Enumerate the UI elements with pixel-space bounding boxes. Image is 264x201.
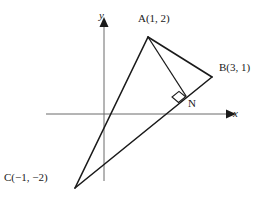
triangle-group: [75, 37, 212, 188]
axes-group: [46, 17, 236, 181]
segment-AN-altitude: [148, 37, 186, 96]
segment-AC: [75, 37, 148, 188]
point-label-A: A(1, 2): [138, 13, 170, 24]
geometry-figure: A(1, 2) B(3, 1) C(−1, −2) N x y: [0, 0, 264, 201]
point-label-B: B(3, 1): [219, 62, 250, 73]
x-axis-label: x: [233, 108, 238, 119]
point-label-C: C(−1, −2): [4, 172, 48, 183]
segment-AB: [148, 37, 212, 77]
y-axis-label: y: [99, 10, 104, 21]
segment-CB: [75, 77, 212, 188]
point-label-N: N: [188, 98, 196, 109]
